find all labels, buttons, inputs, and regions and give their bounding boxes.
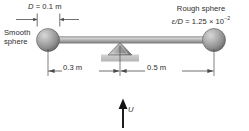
roughness-ratio-symbol: ε/D (172, 16, 183, 25)
rough-sphere (203, 29, 226, 52)
smooth-sphere (37, 29, 60, 52)
smooth-sphere-label: Smooth sphere (4, 29, 38, 46)
rough-sphere-label: Rough sphere ε/D = 1.25 × 10−2 (158, 5, 244, 26)
roughness-ratio-value: = 1.25 × 10 (185, 16, 224, 25)
roughness-ratio-exponent: −2 (224, 15, 230, 21)
left-arm-dimension (48, 69, 119, 73)
diameter-value: = 0.1 m (36, 2, 62, 11)
diameter-label: D = 0.1 m (28, 3, 62, 12)
lever-rod (46, 37, 214, 44)
left-arm-length-label: 0.3 m (63, 64, 82, 73)
rough-sphere-label-line1: Rough sphere (177, 4, 225, 13)
right-arm-dimension (121, 69, 214, 73)
smooth-sphere-label-line2: sphere (4, 37, 28, 46)
diameter-symbol: D (28, 2, 34, 11)
up-arrow-icon (119, 99, 128, 129)
diameter-dimension (16, 14, 79, 27)
right-arm-length-label: 0.5 m (147, 64, 166, 73)
flow-velocity-label: U (128, 106, 134, 115)
